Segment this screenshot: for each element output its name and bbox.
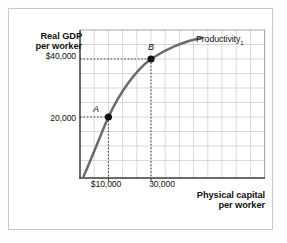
y-tick-label-20000: 20,000 — [16, 114, 76, 124]
curve-label-subscript: 1 — [240, 39, 243, 46]
point-label-a: A — [93, 104, 99, 114]
point-marker-b — [147, 55, 154, 62]
x-tick-label-10000: $10,000 — [80, 180, 132, 190]
point-marker-a — [105, 113, 112, 120]
point-label-b: B — [148, 42, 154, 52]
axis-lines — [79, 30, 265, 179]
x-tick-label-30000: 30,000 — [136, 180, 188, 190]
grid-lines — [80, 30, 265, 178]
x-axis-title-line2: per worker — [155, 200, 265, 210]
y-axis-title-line1: Real GDP — [18, 31, 82, 41]
x-axis-title: Physical capital per worker — [155, 190, 265, 211]
y-axis-title: Real GDP per worker — [18, 31, 82, 52]
y-tick-label-40000: $40,000 — [16, 52, 76, 62]
curve-label-text: Productivity — [196, 34, 240, 44]
x-axis-title-line1: Physical capital — [155, 190, 265, 200]
plot-area-border — [80, 30, 265, 178]
figure-container: Real GDP per worker $40,000 20,000 $10,0… — [0, 0, 287, 243]
curve-label-productivity: Productivity1 — [196, 35, 244, 47]
